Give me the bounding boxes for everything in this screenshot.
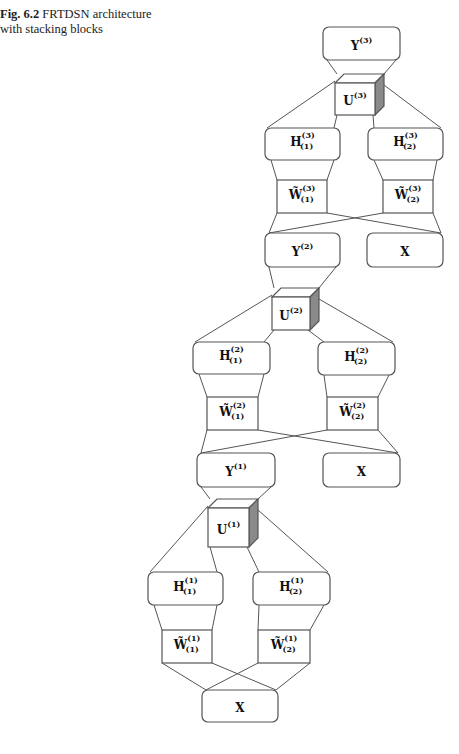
node-label-superscript: (2) (353, 400, 366, 410)
node-label-base: Y (350, 38, 360, 52)
node-label-base: U (343, 94, 354, 108)
node-label: X (400, 245, 410, 259)
connector-line (378, 430, 398, 453)
taper-line (378, 375, 389, 397)
taper-line (310, 605, 324, 630)
taper-line (271, 160, 277, 180)
taper-line (269, 267, 274, 288)
node-label-superscript: (3) (408, 183, 421, 193)
node-label-subscript: (1) (300, 141, 313, 151)
connector-line (264, 330, 274, 342)
connector-line (433, 213, 441, 233)
connector-line (319, 299, 393, 342)
taper-line (201, 487, 210, 499)
node-label-superscript: (2) (290, 305, 303, 315)
crossing-line (212, 663, 276, 690)
cube-side-face (249, 499, 258, 547)
node-label-base: Y (291, 245, 301, 259)
taper-line (319, 267, 336, 288)
connector-line (258, 510, 328, 572)
connector-line (210, 547, 217, 572)
node-label-superscript: (1) (185, 575, 198, 585)
node-label: X (235, 701, 245, 715)
node-label-superscript: (3) (302, 130, 315, 140)
taper-line (199, 374, 207, 397)
connector-line (195, 295, 272, 342)
taper-line (327, 160, 334, 180)
node-label-base: X (400, 245, 410, 259)
node-label-subscript: (2) (407, 194, 420, 204)
crossing-line (206, 663, 258, 690)
node-label-subscript: (2) (403, 141, 416, 151)
node-label-subscript: (2) (351, 411, 364, 421)
node-label: X (357, 465, 367, 479)
node-label-subscript: (1) (231, 411, 244, 421)
taper-line (258, 487, 271, 499)
node-label-subscript: (1) (229, 355, 242, 365)
connector-line (276, 663, 310, 690)
node-label-superscript: (2) (356, 345, 369, 355)
taper-line (212, 605, 217, 630)
taper-line (327, 60, 337, 74)
node-label-subscript: (2) (354, 356, 367, 366)
node-label-superscript: (2) (300, 241, 313, 251)
connector-line (162, 663, 206, 690)
connector-line (384, 85, 441, 128)
taper-line (324, 375, 327, 397)
taper-line (258, 374, 264, 397)
taper-line (154, 605, 162, 630)
node-label-subscript: (2) (283, 644, 296, 654)
node-label-superscript: (3) (354, 90, 367, 100)
node-label-superscript: (1) (291, 575, 304, 585)
crossing-line (258, 430, 398, 453)
node-label-superscript: (3) (302, 183, 315, 193)
node-label-base: U (217, 522, 228, 536)
connector-line (267, 81, 335, 128)
node-label-superscript: (3) (359, 35, 372, 45)
architecture-diagram: Y(3)U(3)H(3)(1)H(3)(2)W̃(3)(1)W̃(3)(2)Y(… (0, 0, 459, 754)
connector-line (150, 506, 208, 572)
connector-line (373, 115, 374, 128)
node-label-subscript: (1) (183, 586, 196, 596)
node-label-superscript: (2) (233, 400, 246, 410)
node-label-superscript: (1) (234, 461, 247, 471)
node-label-superscript: (1) (187, 633, 200, 643)
node-label-base: U (279, 308, 290, 322)
taper-line (258, 605, 259, 630)
node-label-superscript: (2) (231, 344, 244, 354)
crossing-line (269, 213, 383, 233)
connector-line (308, 330, 324, 342)
connector-line (334, 115, 337, 128)
crossing-line (327, 213, 441, 233)
node-label-base: X (357, 465, 367, 479)
node-label-base: Y (224, 465, 234, 479)
node-label-subscript: (1) (186, 644, 199, 654)
node-label-subscript: (2) (289, 586, 302, 596)
crossing-line (201, 430, 327, 453)
taper-line (384, 60, 396, 74)
taper-line (374, 160, 383, 180)
taper-line (433, 160, 437, 180)
connector-line (247, 547, 259, 572)
node-label-subscript: (1) (301, 194, 314, 204)
connector-line (201, 430, 207, 453)
node-label-superscript: (1) (284, 633, 297, 643)
node-label-base: X (235, 701, 245, 715)
connector-line (269, 213, 277, 233)
node-label-superscript: (1) (227, 519, 240, 529)
node-label-superscript: (3) (405, 130, 418, 140)
